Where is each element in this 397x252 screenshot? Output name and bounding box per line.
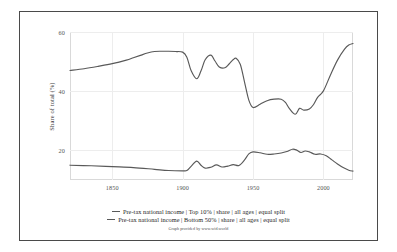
series-line xyxy=(70,44,353,115)
y-tick-label: 60 xyxy=(59,29,65,36)
y-axis-title-text: Share of total (%) xyxy=(48,82,55,130)
x-tick-label: 1850 xyxy=(106,184,119,191)
x-tick-label: 2000 xyxy=(317,184,330,191)
y-tick-label: 20 xyxy=(59,147,65,154)
x-tick-label: 1900 xyxy=(176,184,189,191)
legend-line-icon xyxy=(112,211,120,212)
series-layer xyxy=(70,32,353,180)
series-line xyxy=(70,149,353,171)
legend-item-label: Pre-tax national income | Top 10% | shar… xyxy=(123,208,285,215)
attribution-text: Graph provided by www.wid.world xyxy=(169,226,229,231)
x-tick-label: 1950 xyxy=(247,184,260,191)
plot-area: 204060 1850190019502000 xyxy=(70,32,353,180)
legend-line-icon xyxy=(107,219,115,220)
chart-card: Share of total (%) 204060 18501900195020… xyxy=(19,11,378,241)
legend-item-top10[interactable]: Pre-tax national income | Top 10% | shar… xyxy=(112,208,285,215)
y-tick-label: 40 xyxy=(59,88,65,95)
legend: Pre-tax national income | Top 10% | shar… xyxy=(20,208,377,231)
legend-item-bottom50[interactable]: Pre-tax national income | Bottom 50% | s… xyxy=(107,216,290,223)
y-axis-title: Share of total (%) xyxy=(46,32,57,180)
legend-item-label: Pre-tax national income | Bottom 50% | s… xyxy=(118,216,290,223)
